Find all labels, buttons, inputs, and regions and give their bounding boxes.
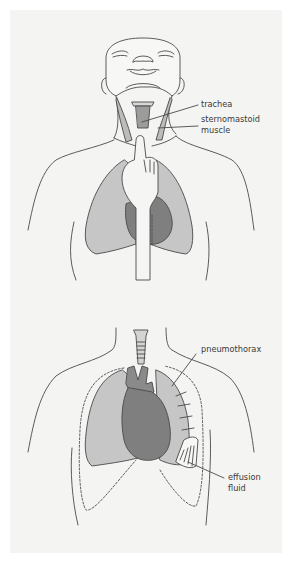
flank-right-lower bbox=[206, 430, 211, 525]
flank-left bbox=[71, 222, 77, 280]
flank-right bbox=[206, 222, 209, 280]
left-ear bbox=[102, 78, 107, 94]
pneumothorax-leader bbox=[172, 354, 196, 386]
larynx bbox=[132, 102, 154, 106]
head-outline bbox=[106, 38, 180, 96]
medical-diagram: trachea sternomastoid muscle pneumothora… bbox=[0, 0, 289, 563]
bottom-figure bbox=[28, 328, 254, 525]
right-sternomastoid bbox=[156, 98, 172, 140]
clavicle-right bbox=[152, 136, 176, 146]
effusion-leader bbox=[188, 462, 224, 478]
trachea-top bbox=[136, 106, 150, 128]
label-muscle: muscle bbox=[201, 125, 230, 135]
label-trachea: trachea bbox=[201, 99, 232, 109]
label-fluid: fluid bbox=[228, 483, 246, 493]
trachea-lower bbox=[134, 330, 148, 364]
top-figure bbox=[28, 38, 254, 280]
label-pneumothorax: pneumothorax bbox=[201, 344, 261, 354]
label-effusion: effusion bbox=[228, 472, 261, 482]
label-sternomastoid: sternomastoid bbox=[201, 114, 260, 124]
flank-left-lower bbox=[71, 448, 78, 525]
left-sternomastoid bbox=[116, 98, 132, 142]
